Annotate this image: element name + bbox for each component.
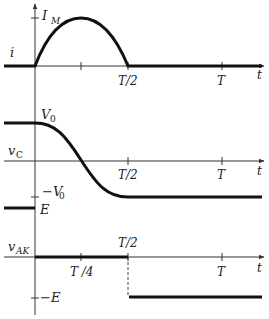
- axis-label-t-vc: t: [257, 164, 262, 178]
- label-minus-v0-sub: 0: [59, 191, 65, 201]
- ylabel-vak: v: [8, 239, 16, 254]
- axis-label-t-vak: t: [257, 261, 262, 275]
- tick-label-t4-vak: T /4: [70, 265, 94, 279]
- axis-label-t-current: t: [257, 68, 262, 82]
- ylabel-vc: v: [8, 143, 16, 158]
- tick-label-t-vc: T: [217, 168, 226, 182]
- label-im-sub: M: [50, 16, 61, 26]
- tick-label-t-current: T: [217, 74, 226, 88]
- tick-label-t2-vak: T/2: [118, 236, 138, 250]
- label-e: E: [39, 202, 50, 217]
- current-trace: [4, 18, 262, 66]
- tick-label-t-vak: T: [217, 265, 226, 279]
- waveform-diagram: i I M T/2 T t V 0 v C −V 0 T/2 T t E v A…: [0, 0, 269, 319]
- ylabel-vc-sub: C: [16, 150, 23, 160]
- label-v0-sub: 0: [50, 114, 56, 124]
- ylabel-i: i: [10, 45, 14, 60]
- panel-capacitor-voltage: V 0 v C −V 0 T/2 T t: [4, 107, 264, 201]
- tick-label-t2-vc: T/2: [118, 168, 138, 182]
- tick-label-t2-current: T/2: [118, 74, 138, 88]
- ylabel-vak-sub: AK: [15, 246, 30, 256]
- panel-thyristor-voltage: E v AK T/2 T /4 T t −E: [4, 202, 264, 305]
- label-minus-e: −E: [40, 290, 61, 305]
- panel-current: i I M T/2 T t: [4, 8, 264, 88]
- label-im: I: [41, 8, 48, 23]
